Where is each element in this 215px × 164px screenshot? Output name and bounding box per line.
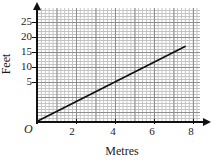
x-tick-label-2: 2 <box>62 126 82 137</box>
x-tick-4 <box>115 119 116 124</box>
y-axis-arrow-icon <box>33 2 41 10</box>
y-tick-10 <box>32 67 37 68</box>
plot-grid-area <box>37 8 200 122</box>
y-tick-label-25: 25 <box>6 16 32 27</box>
origin-label: O <box>24 123 33 135</box>
x-axis-title: Metres <box>82 145 162 157</box>
conversion-graph-figure: 25 20 15 10 5 2 4 6 8 O Feet Metres <box>0 0 215 164</box>
y-tick-25 <box>32 22 37 23</box>
y-tick-20 <box>32 37 37 38</box>
x-axis-arrow-icon <box>203 118 211 126</box>
x-tick-label-8: 8 <box>181 126 201 137</box>
y-axis-title: Feet <box>0 40 12 88</box>
x-tick-label-6: 6 <box>142 126 162 137</box>
y-tick-5 <box>32 82 37 83</box>
x-tick-label-4: 4 <box>103 126 123 137</box>
x-tick-8 <box>193 119 194 124</box>
x-tick-6 <box>154 119 155 124</box>
x-axis-line <box>36 121 207 123</box>
x-tick-2 <box>76 119 77 124</box>
y-tick-15 <box>32 52 37 53</box>
